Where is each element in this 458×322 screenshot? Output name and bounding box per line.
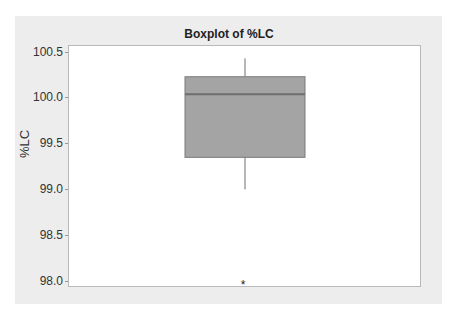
boxplot-graphic: * [0, 0, 458, 322]
outlier-marker: * [241, 278, 246, 292]
interquartile-box [185, 77, 305, 158]
